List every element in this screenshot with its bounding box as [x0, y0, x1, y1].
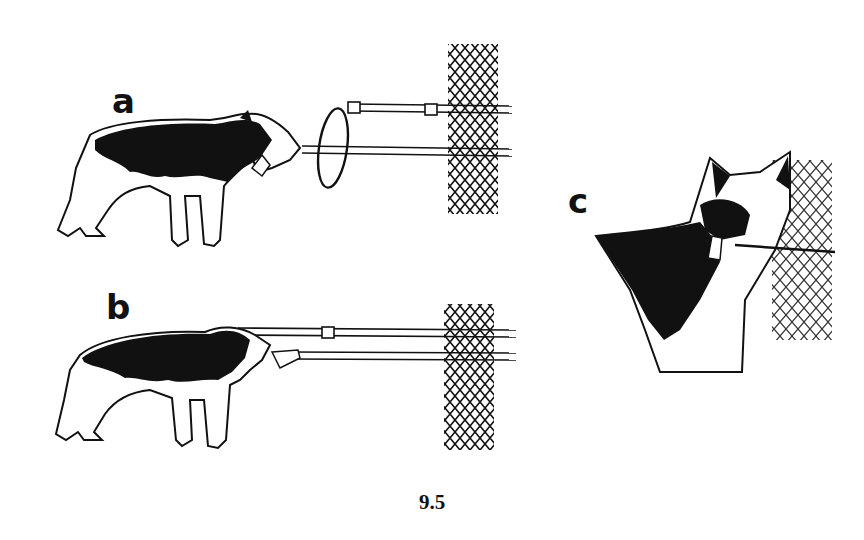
panel-b [56, 304, 516, 450]
dog-b [56, 327, 300, 448]
paw-on-pole [272, 350, 300, 368]
cable-loop [314, 106, 353, 189]
dog-a [58, 110, 300, 246]
illustration [0, 0, 864, 540]
figure-number: 9.5 [0, 490, 864, 515]
panel-c [596, 152, 835, 372]
fence-b [444, 304, 494, 450]
panel-a [58, 44, 512, 246]
fence-a [448, 44, 498, 214]
